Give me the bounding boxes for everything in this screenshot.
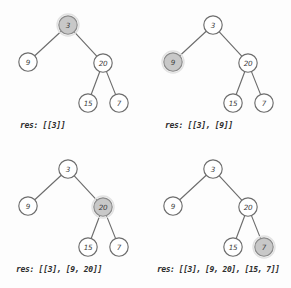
tree-edge xyxy=(180,176,206,200)
panel-caption-4: res: [[3], [9, 20], [15, 7]] xyxy=(157,264,279,274)
tree-edge xyxy=(75,176,97,200)
tree-node-label: 7 xyxy=(117,243,122,252)
tree-edge xyxy=(75,32,97,56)
panel-caption-3: res: [[3], [9, 20]] xyxy=(16,264,102,274)
tree-node-label: 7 xyxy=(262,99,267,108)
tree-graphic-2: 3920157 xyxy=(145,0,290,120)
tree-edge xyxy=(236,216,244,238)
tree-node-label: 3 xyxy=(66,165,71,174)
tree-node-label: 15 xyxy=(229,99,238,108)
tree-edge xyxy=(91,72,99,94)
tree-node-label: 15 xyxy=(84,99,93,108)
tree-edge xyxy=(252,216,261,238)
tree-node-label: 3 xyxy=(66,21,71,30)
diagram-panel-4: 3920157 res: [[3], [9, 20], [15, 7]] xyxy=(145,144,290,288)
tree-edge xyxy=(35,32,61,56)
panel-caption-2: res: [[3], [9]] xyxy=(165,120,233,130)
tree-edge xyxy=(91,216,99,238)
tree-edge xyxy=(220,176,242,200)
tree-edge xyxy=(107,216,116,238)
tree-node-label: 3 xyxy=(211,21,216,30)
tree-edge xyxy=(252,72,261,94)
tree-graphic-4: 3920157 xyxy=(145,144,290,264)
tree-node-label: 9 xyxy=(171,202,176,211)
tree-node-label: 7 xyxy=(117,99,122,108)
tree-graphic-1: 3920157 xyxy=(0,0,145,120)
tree-node-label: 20 xyxy=(99,203,108,212)
tree-node-label: 7 xyxy=(262,243,267,252)
diagram-panel-3: 3920157 res: [[3], [9, 20]] xyxy=(0,144,145,288)
tree-node-label: 20 xyxy=(99,59,108,68)
tree-node-label: 20 xyxy=(244,59,253,68)
tree-edge xyxy=(180,32,206,56)
tree-node-label: 15 xyxy=(84,243,93,252)
tree-edge xyxy=(220,32,242,56)
tree-graphic-3: 3920157 xyxy=(0,144,145,264)
tree-node-label: 9 xyxy=(26,202,31,211)
tree-edge xyxy=(236,72,244,94)
panel-caption-1: res: [[3]] xyxy=(20,120,65,130)
tree-edge xyxy=(35,176,61,200)
tree-node-label: 15 xyxy=(229,243,238,252)
diagram-panel-2: 3920157 res: [[3], [9]] xyxy=(145,0,290,144)
diagram-canvas: 3920157 res: [[3]] 3920157 res: [[3], [9… xyxy=(0,0,291,288)
diagram-panel-1: 3920157 res: [[3]] xyxy=(0,0,145,144)
tree-edge xyxy=(107,72,116,94)
tree-node-label: 3 xyxy=(211,165,216,174)
tree-node-label: 9 xyxy=(171,58,176,67)
tree-node-label: 20 xyxy=(244,203,253,212)
tree-node-label: 9 xyxy=(26,58,31,67)
